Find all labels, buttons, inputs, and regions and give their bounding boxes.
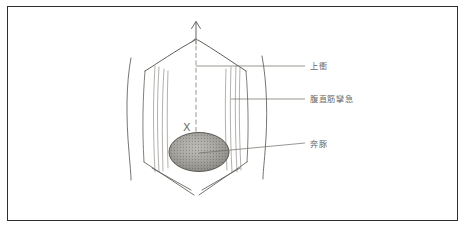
rectus-band-left — [154, 66, 169, 172]
torso-illustration — [0, 0, 465, 228]
label-honton: 奔豚 — [310, 140, 327, 148]
lower-abdominal-mass — [169, 133, 229, 172]
label-fukuchokukin-rankyu: 腹直筋攣急 — [310, 95, 354, 103]
label-jousho: 上衝 — [310, 62, 327, 70]
x-mark: X — [183, 122, 191, 133]
screenshot-root: X 上衝 腹直筋攣急 奔豚 — [0, 0, 465, 228]
